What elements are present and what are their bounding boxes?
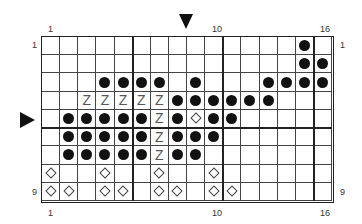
chart-cell [78,37,96,55]
filled-dot-icon [190,77,201,88]
chart-cell [205,73,223,91]
chart-cell [96,183,114,201]
chart-cell [260,128,278,146]
chart-cell [278,128,296,146]
chart-cell [278,146,296,164]
chart-cell [96,73,114,91]
chart-cell [205,128,223,146]
top-arrow-marker-icon [179,14,193,29]
chart-cell [260,73,278,91]
filled-dot-icon [190,149,201,160]
chart-cell [133,55,151,73]
filled-dot-icon [99,131,110,142]
chart-cell [42,73,60,91]
chart-cell [223,183,241,201]
chart-cell [241,165,259,183]
filled-dot-icon [317,58,328,69]
chart-cell [169,110,187,128]
z-symbol-icon: Z [155,130,164,144]
col-label-top-16: 16 [320,24,330,34]
chart-cell [42,183,60,201]
chart-cell [223,37,241,55]
chart-cell [133,146,151,164]
chart-cell [296,92,314,110]
chart-cell [205,110,223,128]
filled-dot-icon [263,77,274,88]
chart-cell [133,110,151,128]
chart-cell [115,183,133,201]
open-diamond-icon [99,167,110,178]
chart-cell [60,165,78,183]
chart-cell [187,92,205,110]
chart-cell [133,165,151,183]
chart-cell [78,73,96,91]
filled-dot-icon [208,95,219,106]
chart-cell [260,165,278,183]
chart-cell [314,128,332,146]
chart-cell [187,37,205,55]
chart-cell: Z [133,92,151,110]
chart-cell [296,128,314,146]
chart-cell [241,128,259,146]
col-label-top-10: 10 [212,24,222,34]
open-diamond-icon [172,186,183,197]
chart-cell [151,183,169,201]
chart-cell [260,37,278,55]
filled-dot-icon [190,95,201,106]
z-symbol-icon: Z [155,93,164,107]
chart-cell [169,146,187,164]
filled-dot-icon [81,113,92,124]
col-label-bottom-10: 10 [212,208,222,218]
chart-cell: Z [115,92,133,110]
chart-cell [115,146,133,164]
open-diamond-icon [208,167,219,178]
z-symbol-icon: Z [83,93,92,107]
chart-cell [96,55,114,73]
chart-cell [278,73,296,91]
filled-dot-icon [99,77,110,88]
chart-cell [115,128,133,146]
filled-dot-icon [136,149,147,160]
chart-cell [60,110,78,128]
chart-cell [296,146,314,164]
chart-cell [205,165,223,183]
chart-cell [241,183,259,201]
chart-cell [278,165,296,183]
filled-dot-icon [281,77,292,88]
chart-cell [314,146,332,164]
chart-cell [260,55,278,73]
filled-dot-icon [299,77,310,88]
row-label-left-1: 1 [32,40,37,50]
chart-cell [169,183,187,201]
filled-dot-icon [190,131,201,142]
chart-cell [296,55,314,73]
chart-cell [187,73,205,91]
chart-cell [115,165,133,183]
filled-dot-icon [136,131,147,142]
filled-dot-icon [63,131,74,142]
row-label-left-9: 9 [32,187,37,197]
open-diamond-icon [226,186,237,197]
chart-cell [296,183,314,201]
chart-cell [241,110,259,128]
chart-cell [187,55,205,73]
chart-cell [133,73,151,91]
filled-dot-icon [63,113,74,124]
chart-cell [169,92,187,110]
chart-cell [223,110,241,128]
chart-cell [60,92,78,110]
chart-cell [169,128,187,146]
chart-cell [96,146,114,164]
chart-cell [96,37,114,55]
chart-cell [151,165,169,183]
chart-cell [223,128,241,146]
filled-dot-icon [299,40,310,51]
chart-cell [60,146,78,164]
chart-cell [42,165,60,183]
filled-dot-icon [81,149,92,160]
chart-cell [96,165,114,183]
chart-cell [78,128,96,146]
open-diamond-icon [45,167,56,178]
filled-dot-icon [172,113,183,124]
chart-cell [278,37,296,55]
